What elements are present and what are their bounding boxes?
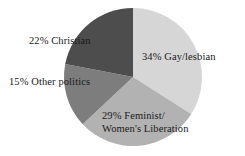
pie-label-christian-text: 22% Christian: [29, 35, 91, 48]
pie-chart-figure: 22% Christian 15% Other politics 34% Gay…: [0, 0, 245, 156]
pie-label-other-politics: 15% Other politics: [9, 76, 90, 89]
pie-label-feminist: 29% Feminist/ Women's Liberation: [102, 110, 214, 135]
pie-label-feminist-line2: Women's Liberation: [102, 123, 214, 136]
pie-label-other-politics-text: 15% Other politics: [9, 76, 90, 89]
pie-label-feminist-line1: 29% Feminist/: [102, 110, 214, 123]
pie-label-gay-lesbian-text: 34% Gay/lesbian: [142, 51, 216, 64]
pie-label-gay-lesbian: 34% Gay/lesbian: [142, 51, 216, 64]
pie-label-christian: 22% Christian: [29, 35, 91, 48]
